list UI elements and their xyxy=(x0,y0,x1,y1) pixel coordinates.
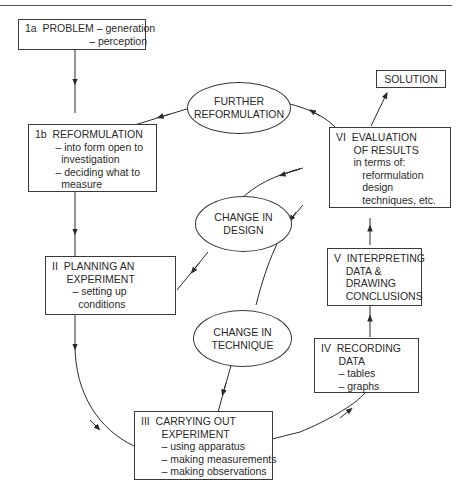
node-reformulation: 1b REFORMULATION – into form open to inv… xyxy=(28,124,157,192)
node-further-reformulation: FURTHER REFORMULATION xyxy=(187,82,291,134)
node-change-technique: CHANGE IN TECHNIQUE xyxy=(193,310,292,367)
edge-evaluation-to-change-design xyxy=(240,168,303,200)
node-change-design-line: CHANGE IN xyxy=(214,211,272,224)
node-carrying-out-line: EXPERIMENT xyxy=(141,428,266,441)
node-planning-line: conditions xyxy=(52,298,169,311)
edge-change-design-to-planning xyxy=(177,252,208,290)
node-further-reformulation-line: FURTHER xyxy=(214,95,264,108)
node-evaluation-line: VI EVALUATION xyxy=(336,131,444,144)
node-carrying-out-line: III CARRYING OUT xyxy=(141,415,266,428)
node-problem-line: 1a PROBLEM – generation xyxy=(25,22,139,35)
node-evaluation: VI EVALUATION OF RESULTS in terms of: re… xyxy=(329,127,451,208)
node-carrying-out: III CARRYING OUT EXPERIMENT – using appa… xyxy=(134,411,273,480)
node-recording-line: IV RECORDING xyxy=(321,342,412,355)
node-change-design: CHANGE IN DESIGN xyxy=(195,196,292,252)
node-recording: IV RECORDING DATA – tables – graphs xyxy=(314,338,419,393)
node-evaluation-line: design xyxy=(336,181,444,194)
node-carrying-out-line: – making observations xyxy=(141,465,266,478)
node-carrying-out-line: – making measurements xyxy=(141,453,266,466)
node-change-technique-line: CHANGE IN xyxy=(213,326,271,339)
node-planning-line: II PLANNING AN xyxy=(52,260,169,273)
node-reformulation-line: measure xyxy=(35,178,150,191)
node-problem-line: – perception xyxy=(25,35,139,48)
node-reformulation-line: investigation xyxy=(35,153,150,166)
node-evaluation-line: in terms of: xyxy=(336,156,444,169)
node-reformulation-line: – deciding what to xyxy=(35,166,150,179)
node-solution-label: SOLUTION xyxy=(382,73,440,86)
node-recording-line: – tables xyxy=(321,367,412,380)
edge-evaluation-to-solution xyxy=(371,95,386,126)
node-further-reformulation-line: REFORMULATION xyxy=(194,108,284,121)
node-change-technique-line: TECHNIQUE xyxy=(212,339,274,352)
node-change-design-line: DESIGN xyxy=(223,224,263,237)
node-evaluation-line: techniques, etc. xyxy=(336,194,444,207)
node-interpreting-line: CONCLUSIONS xyxy=(334,290,415,303)
node-recording-line: – graphs xyxy=(321,380,412,393)
node-reformulation-line: – into form open to xyxy=(35,141,150,154)
node-problem: 1a PROBLEM – generation – perception xyxy=(18,19,146,50)
node-planning-line: – setting up xyxy=(52,285,169,298)
edge-carrying-out-to-recording xyxy=(272,432,300,439)
node-interpreting-line: DRAWING xyxy=(334,277,415,290)
node-recording-line: DATA xyxy=(321,355,412,368)
node-interpreting-line: DATA & xyxy=(334,265,415,278)
node-interpreting: V INTERPRETING DATA & DRAWING CONCLUSION… xyxy=(327,248,422,306)
node-planning-line: EXPERIMENT xyxy=(52,273,169,286)
node-solution: SOLUTION xyxy=(376,70,446,88)
node-planning: II PLANNING AN EXPERIMENT – setting up c… xyxy=(45,256,176,315)
node-interpreting-line: V INTERPRETING xyxy=(334,252,415,265)
node-carrying-out-line: – using apparatus xyxy=(141,440,266,453)
node-reformulation-line: 1b REFORMULATION xyxy=(35,128,150,141)
node-evaluation-line: reformulation xyxy=(336,169,444,182)
node-evaluation-line: OF RESULTS xyxy=(336,144,444,157)
